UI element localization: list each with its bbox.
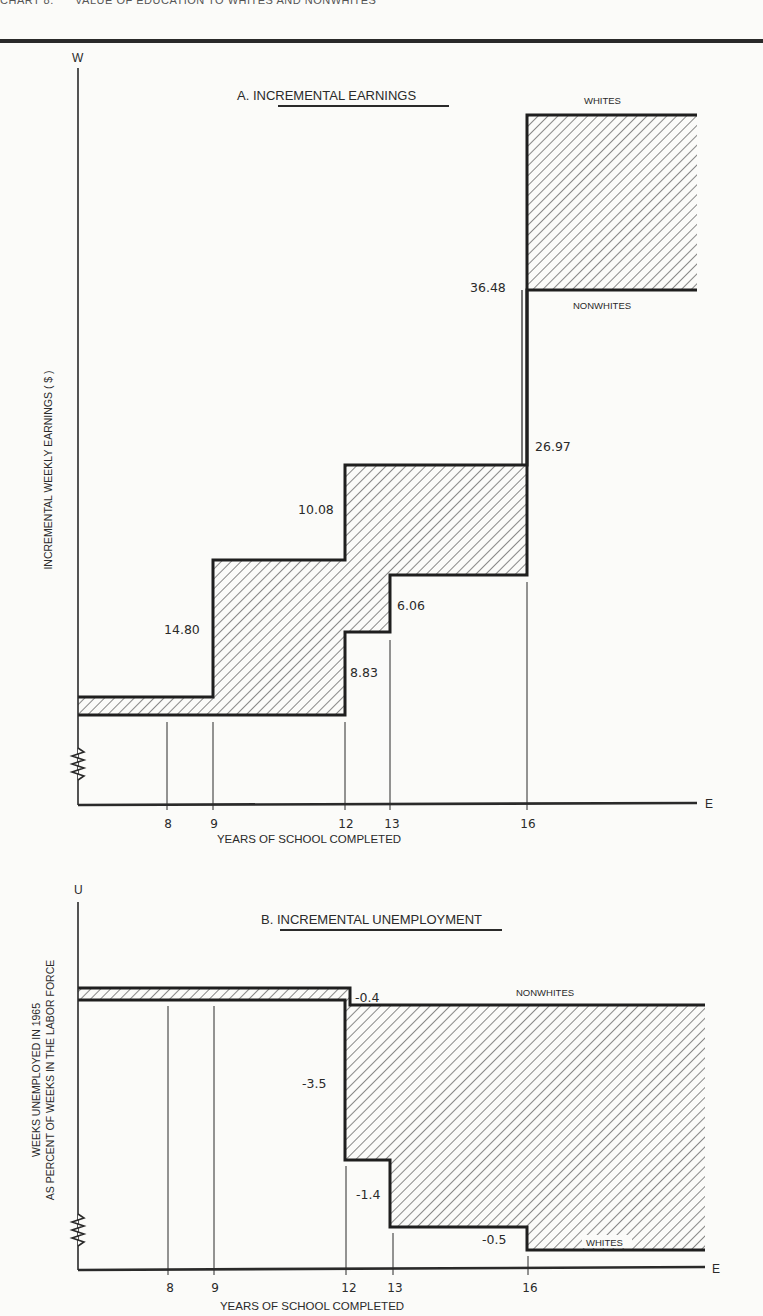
x-axis-letter: E [705, 797, 713, 811]
value-label: 10.08 [298, 502, 334, 517]
axis-break-icon [72, 1214, 84, 1246]
value-label: 6.06 [397, 598, 425, 613]
chart-title: B. INCREMENTAL UNEMPLOYMENT [261, 912, 482, 927]
x-tick: 13 [384, 817, 399, 831]
x-tick: 8 [164, 817, 172, 831]
x-tick: 16 [520, 817, 535, 831]
y-axis-label: INCREMENTAL WEEKLY EARNINGS ( $ ) [42, 370, 54, 569]
x-axis-label: YEARS OF SCHOOL COMPLETED [217, 833, 401, 845]
series-label-nonwhites: NONWHITES [516, 987, 574, 998]
x-axis [78, 803, 697, 805]
value-label: 36.48 [470, 280, 506, 295]
x-axis-letter: E [712, 1262, 720, 1276]
series-label-whites: WHITES [584, 95, 621, 106]
value-label: 26.97 [535, 439, 571, 454]
series-label-nonwhites: NONWHITES [573, 300, 631, 311]
chart-title: A. INCREMENTAL EARNINGS [237, 88, 416, 103]
x-tick: 8 [166, 1281, 174, 1295]
x-tick-labels: 8 9 12 13 16 [166, 1281, 537, 1295]
x-tick: 12 [341, 1281, 356, 1295]
value-label: -0.4 [355, 990, 379, 1005]
axis-break-icon [72, 748, 84, 780]
x-tick: 16 [522, 1281, 537, 1295]
value-label: -0.5 [482, 1232, 506, 1247]
value-label: -1.4 [356, 1187, 380, 1202]
x-axis [78, 1267, 705, 1270]
x-tick: 9 [211, 1281, 219, 1295]
chart-b: U B. INCREMENTAL UNEMPLOYMENT E 8 9 12 1… [30, 883, 720, 1312]
chart-a: W A. INCREMENTAL EARNINGS E 8 9 12 [42, 51, 713, 845]
x-tick: 13 [387, 1281, 402, 1295]
x-tick-labels: 8 9 12 13 16 [164, 817, 535, 831]
x-tick: 9 [210, 817, 218, 831]
figure: W A. INCREMENTAL EARNINGS E 8 9 12 [0, 0, 763, 1316]
x-axis-label: YEARS OF SCHOOL COMPLETED [220, 1300, 404, 1312]
x-tick: 12 [338, 817, 353, 831]
y-axis-label-line1: WEEKS UNEMPLOYED IN 1965 [30, 1003, 42, 1157]
y-axis-letter: W [72, 51, 84, 65]
y-axis-label-line2: AS PERCENT OF WEEKS IN THE LABOR FORCE [44, 960, 56, 1201]
value-label: -3.5 [302, 1076, 326, 1091]
series-label-whites: WHITES [586, 1237, 623, 1248]
y-axis-letter: U [74, 883, 83, 897]
value-label: 14.80 [164, 622, 200, 637]
value-label: 8.83 [350, 665, 378, 680]
